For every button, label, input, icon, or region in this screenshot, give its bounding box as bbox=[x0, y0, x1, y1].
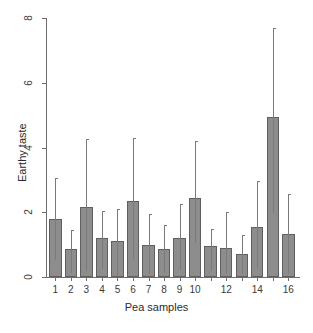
error-bar-cap bbox=[86, 139, 89, 140]
y-axis-tick bbox=[42, 148, 46, 149]
x-axis-tick-label: 10 bbox=[185, 284, 205, 295]
error-bar-whisker bbox=[195, 141, 196, 243]
x-axis-title: Pea samples bbox=[0, 301, 313, 313]
error-bar-whisker bbox=[71, 230, 72, 273]
x-axis-tick bbox=[86, 277, 87, 281]
x-axis-tick bbox=[164, 277, 165, 281]
error-bar-whisker bbox=[86, 139, 87, 271]
error-bar-whisker bbox=[149, 214, 150, 274]
error-bar-whisker bbox=[164, 225, 165, 274]
error-bar-whisker bbox=[55, 178, 56, 260]
error-bar-whisker bbox=[288, 194, 289, 273]
x-axis-tick bbox=[55, 277, 56, 281]
y-axis-title: Earthy taste bbox=[16, 123, 28, 182]
x-axis-tick bbox=[102, 277, 103, 281]
error-bar-whisker bbox=[242, 235, 243, 274]
error-bar-whisker bbox=[133, 138, 134, 259]
error-bar-cap bbox=[180, 204, 183, 205]
x-axis-tick bbox=[117, 277, 118, 281]
x-axis-tick bbox=[195, 277, 196, 281]
y-axis-tick bbox=[42, 83, 46, 84]
error-bar-cap bbox=[55, 178, 58, 179]
x-axis-tick bbox=[149, 277, 150, 281]
error-bar-cap bbox=[195, 141, 198, 142]
x-axis-tick bbox=[180, 277, 181, 281]
y-axis-tick-label: 2 bbox=[24, 205, 34, 219]
error-bar-whisker bbox=[226, 212, 227, 274]
error-bar-cap bbox=[149, 214, 152, 215]
error-bar-cap bbox=[211, 229, 214, 230]
y-axis-tick-label: 0 bbox=[24, 270, 34, 284]
error-bar-whisker bbox=[257, 181, 258, 267]
error-bar-cap bbox=[102, 211, 105, 212]
error-bar-whisker bbox=[102, 211, 103, 269]
x-axis-line bbox=[46, 277, 300, 278]
error-bar-whisker bbox=[211, 229, 212, 270]
error-bar-cap bbox=[164, 225, 167, 226]
y-axis-tick-label: 8 bbox=[24, 11, 34, 25]
error-bar-cap bbox=[133, 138, 136, 139]
x-axis-tick bbox=[257, 277, 258, 281]
y-axis-tick-label: 6 bbox=[24, 76, 34, 90]
error-bar-cap bbox=[71, 230, 74, 231]
error-bar-cap bbox=[288, 194, 291, 195]
y-axis-tick bbox=[42, 212, 46, 213]
error-bar-cap bbox=[257, 181, 260, 182]
x-axis-tick bbox=[226, 277, 227, 281]
x-axis-tick bbox=[211, 277, 212, 281]
barplot-figure: 02468 12345678910121416 Pea samples Eart… bbox=[0, 0, 313, 333]
y-axis-line bbox=[46, 18, 47, 278]
error-bar-cap bbox=[242, 235, 245, 236]
error-bar-whisker bbox=[117, 209, 118, 275]
x-axis-tick-label: 12 bbox=[216, 284, 236, 295]
y-axis-tick bbox=[42, 18, 46, 19]
x-axis-tick-label: 14 bbox=[247, 284, 267, 295]
error-bar-cap bbox=[273, 28, 276, 29]
x-axis-tick-label: 16 bbox=[278, 284, 298, 295]
y-axis-tick bbox=[42, 277, 46, 278]
x-axis-tick bbox=[242, 277, 243, 281]
x-axis-tick bbox=[71, 277, 72, 281]
error-bar-cap bbox=[226, 212, 229, 213]
error-bar-whisker bbox=[180, 204, 181, 270]
x-axis-tick bbox=[288, 277, 289, 281]
x-axis-tick bbox=[273, 277, 274, 281]
error-bar-cap bbox=[117, 209, 120, 210]
error-bar-whisker bbox=[273, 28, 274, 213]
x-axis-tick bbox=[133, 277, 134, 281]
